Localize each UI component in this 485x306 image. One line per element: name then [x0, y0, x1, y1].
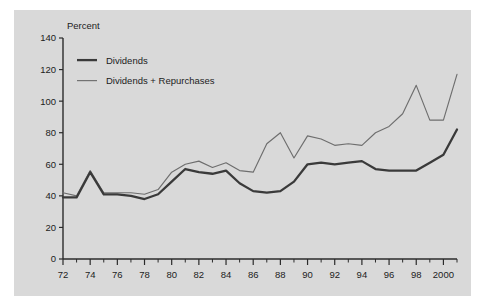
x-tick-label: 76 [112, 269, 123, 280]
x-tick-label: 80 [166, 269, 177, 280]
y-axis-tick-labels: 020406080100120140 [40, 32, 56, 264]
y-tick-label: 40 [45, 190, 56, 201]
y-tick-label: 80 [45, 127, 56, 138]
line-chart-svg: 020406080100120140 727476788082848688909… [14, 10, 471, 296]
chart-legend: Dividends Dividends + Repurchases [77, 55, 215, 87]
x-tick-label: 84 [221, 269, 232, 280]
figure-panel: 020406080100120140 727476788082848688909… [14, 10, 471, 296]
x-tick-label: 82 [194, 269, 205, 280]
series-line-dividends-plus-repurchases [63, 74, 457, 196]
series-line-dividends [63, 130, 457, 199]
legend-label-dividends: Dividends [106, 55, 148, 66]
y-axis-title: Percent [67, 20, 100, 31]
x-tick-label: 72 [58, 269, 69, 280]
x-tick-label: 2000 [433, 269, 454, 280]
x-tick-label: 78 [139, 269, 150, 280]
y-tick-label: 120 [40, 64, 56, 75]
x-tick-label: 96 [384, 269, 395, 280]
y-tick-label: 140 [40, 32, 56, 43]
y-tick-label: 60 [45, 159, 56, 170]
x-axis-ticks [63, 259, 457, 265]
y-tick-label: 100 [40, 96, 56, 107]
x-tick-label: 92 [329, 269, 340, 280]
y-tick-label: 0 [51, 253, 56, 264]
x-tick-label: 90 [302, 269, 313, 280]
chart-canvas: 020406080100120140 727476788082848688909… [14, 10, 471, 296]
x-tick-label: 98 [411, 269, 422, 280]
x-tick-label: 86 [248, 269, 259, 280]
x-tick-label: 74 [85, 269, 96, 280]
y-tick-label: 20 [45, 222, 56, 233]
x-tick-label: 94 [357, 269, 368, 280]
legend-label-dividends-plus-repurchases: Dividends + Repurchases [106, 75, 215, 86]
x-tick-label: 88 [275, 269, 286, 280]
x-axis-tick-labels: 72747678808284868890929496982000 [58, 269, 454, 280]
